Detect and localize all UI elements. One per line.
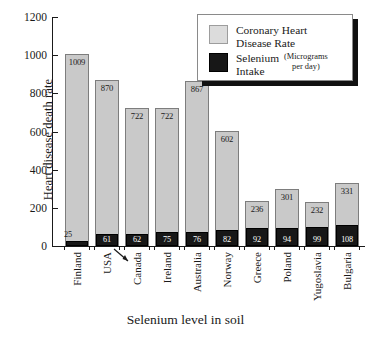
selenium-bar[interactable]: 82 [216, 230, 238, 246]
chd-value-label: 602 [216, 134, 238, 144]
x-tick-mark [329, 246, 330, 250]
x-tick-mark [304, 246, 305, 250]
legend-label-selenium-units: (Micrograms per day) [284, 52, 328, 71]
legend-units-line2: per day) [284, 62, 328, 72]
legend-label-chd-line1: Coronary Heart [236, 24, 307, 37]
x-tick-mark [179, 246, 180, 250]
x-tick-mark [334, 246, 335, 250]
selenium-bar[interactable]: 25 [66, 241, 88, 246]
selenium-bar[interactable]: 92 [246, 228, 268, 246]
selenium-bar[interactable]: 76 [186, 232, 208, 247]
x-tick-mark [239, 246, 240, 250]
x-tick-mark [124, 246, 125, 250]
legend-label-selenium-line2: Intake [236, 65, 279, 78]
x-tick-mark [119, 246, 120, 250]
chd-value-label: 1009 [66, 57, 88, 67]
y-tick-label: 600 [30, 126, 47, 138]
y-tick-mark [53, 55, 58, 56]
selenium-value-label: 62 [127, 235, 147, 244]
x-tick-mark [149, 246, 150, 250]
y-tick-label: 0 [41, 240, 47, 252]
legend-item-chd[interactable]: Coronary Heart Disease Rate [209, 24, 307, 49]
chd-bar[interactable]: 870 [95, 80, 119, 246]
selenium-value-label: 76 [187, 235, 207, 244]
x-tick-mark [214, 246, 215, 250]
legend-label-selenium: Selenium Intake (Micrograms per day) [236, 52, 328, 77]
y-tick-label: 400 [30, 164, 47, 176]
y-tick-mark [53, 132, 58, 133]
y-tick-label: 800 [30, 87, 47, 99]
legend-label-chd: Coronary Heart Disease Rate [236, 24, 307, 49]
selenium-value-label: 99 [307, 235, 327, 244]
chart-legend: Coronary Heart Disease Rate Selenium Int… [197, 14, 353, 81]
chd-value-label: 232 [306, 205, 328, 215]
legend-swatch-selenium-icon [209, 53, 228, 72]
selenium-bar[interactable]: 99 [306, 227, 328, 246]
selenium-bar[interactable]: 61 [96, 234, 118, 246]
selenium-value-label: 94 [277, 235, 297, 244]
chd-value-label: 722 [156, 111, 178, 121]
chd-bar[interactable]: 602 [215, 131, 239, 246]
x-tick-mark [89, 246, 90, 250]
x-tick-mark [269, 246, 270, 250]
y-tick-mark [53, 93, 58, 94]
chd-value-label: 722 [126, 111, 148, 121]
chd-bar[interactable]: 722 [155, 108, 179, 246]
selenium-value-label: 92 [247, 235, 267, 244]
legend-units-line1: (Micrograms [284, 52, 328, 62]
chd-value-label: 301 [276, 192, 298, 202]
selenium-bar[interactable]: 62 [126, 234, 148, 246]
selenium-bar[interactable]: 94 [276, 228, 298, 246]
y-tick-label: 1200 [24, 11, 47, 23]
chd-bar[interactable]: 867 [185, 81, 209, 246]
x-tick-mark [94, 246, 95, 250]
x-tick-mark [274, 246, 275, 250]
y-tick-mark [53, 170, 58, 171]
chd-value-label: 870 [96, 83, 118, 93]
y-tick-label: 200 [30, 202, 47, 214]
legend-item-selenium[interactable]: Selenium Intake (Micrograms per day) [209, 52, 328, 77]
y-tick-label: 1000 [24, 49, 47, 61]
selenium-bar[interactable]: 75 [156, 232, 178, 246]
legend-label-selenium-main: Selenium Intake [236, 52, 279, 77]
x-tick-mark [299, 246, 300, 250]
chd-bar[interactable]: 722 [125, 108, 149, 246]
chart-figure: Heart disease death rate 1200 1000 800 6… [0, 0, 371, 354]
legend-label-selenium-line1: Selenium [236, 52, 279, 65]
x-tick-mark [244, 246, 245, 250]
x-tick-mark [184, 246, 185, 250]
chd-bar[interactable]: 1009 [65, 54, 89, 247]
selenium-value-label: 25 [58, 230, 78, 239]
x-tick-mark [64, 246, 65, 250]
chd-value-label: 236 [246, 204, 268, 214]
selenium-value-label: 75 [157, 235, 177, 244]
chd-value-label: 331 [336, 186, 358, 196]
selenium-value-label: 61 [97, 235, 117, 244]
x-axis-title: Selenium level in soil [0, 312, 371, 328]
selenium-bar[interactable]: 108 [336, 225, 358, 246]
legend-label-chd-line2: Disease Rate [236, 37, 307, 50]
selenium-value-label: 82 [217, 235, 237, 244]
y-tick-mark [53, 17, 58, 18]
x-tick-mark [154, 246, 155, 250]
legend-swatch-chd-icon [209, 25, 228, 44]
selenium-value-label: 108 [337, 235, 357, 244]
x-tick-mark [359, 246, 360, 250]
x-tick-mark [209, 246, 210, 250]
y-tick-mark [53, 208, 58, 209]
